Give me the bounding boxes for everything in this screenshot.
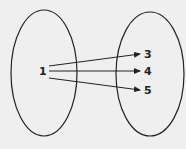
range-element-3: 3 [144,48,152,61]
mapping-diagram: 1 3 4 5 [0,0,186,149]
range-element-5: 5 [144,84,152,97]
domain-element-1: 1 [39,65,47,78]
arrow-1-to-5 [49,78,140,90]
range-element-4: 4 [144,65,152,78]
arrow-1-to-3 [49,54,140,66]
diagram-canvas: 1 3 4 5 [0,0,186,149]
